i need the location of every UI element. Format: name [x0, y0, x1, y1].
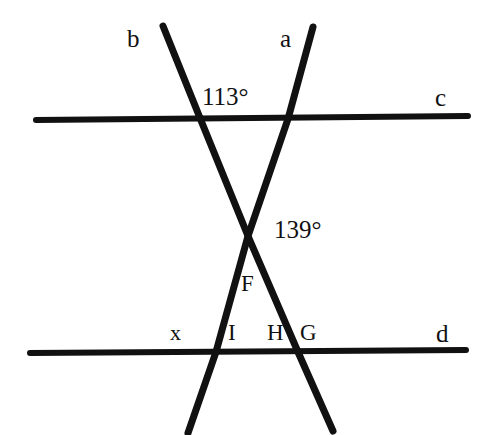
- geometry-canvas: [0, 0, 496, 435]
- label-line-c: c: [435, 85, 446, 110]
- line-c: [36, 116, 468, 120]
- geometry-diagram: b a c d 113° 139° x F I H G: [0, 0, 496, 435]
- label-point-H: H: [267, 321, 284, 344]
- label-point-G: G: [300, 321, 317, 344]
- label-point-F: F: [241, 272, 254, 295]
- line-d: [30, 350, 466, 353]
- label-line-d: d: [436, 321, 449, 346]
- label-line-a: a: [280, 26, 291, 51]
- label-line-b: b: [127, 26, 140, 51]
- label-angle-113: 113°: [202, 84, 249, 109]
- label-unknown-x: x: [170, 322, 181, 344]
- label-angle-139: 139°: [274, 217, 322, 242]
- label-point-I: I: [228, 321, 236, 344]
